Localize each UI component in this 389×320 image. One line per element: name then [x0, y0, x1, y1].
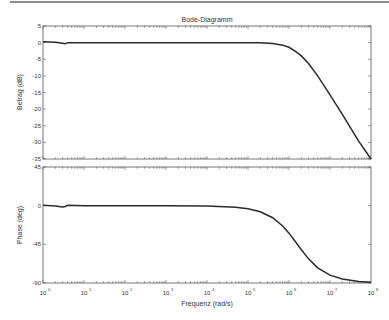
x-tick-label: 10 — [122, 290, 129, 296]
phase-axes-box — [43, 167, 371, 283]
x-tick-label: 10 — [204, 290, 211, 296]
x-tick-exponent: 7 — [335, 287, 338, 292]
x-tick-label: 10 — [286, 290, 293, 296]
y-tick-label: -25 — [32, 123, 41, 129]
y-tick-label: 0 — [38, 40, 42, 46]
bode-diagram: Bode-Diagramm 50-5-10-15-20-25-30-35 Bet… — [0, 0, 389, 320]
x-tick-exponent: 0 — [48, 287, 51, 292]
y-tick-label: -45 — [32, 241, 41, 247]
x-tick-exponent: 3 — [171, 287, 174, 292]
phase-y-label: Phase (deg) — [16, 206, 24, 244]
y-tick-label: -90 — [32, 280, 41, 286]
magnitude-axes-box — [43, 26, 371, 159]
phase-plot: 450-45-90 Phase (deg) — [16, 164, 371, 286]
x-tick-label: 10 — [81, 290, 88, 296]
x-tick-label: 10 — [368, 290, 375, 296]
x-tick-exponent: 2 — [130, 287, 133, 292]
y-tick-label: 5 — [38, 23, 42, 29]
y-tick-label: 45 — [34, 164, 41, 170]
y-tick-label: -30 — [32, 139, 41, 145]
x-tick-labels: 100101102103104105106107108 — [40, 287, 379, 296]
x-tick-exponent: 8 — [376, 287, 379, 292]
x-tick-exponent: 1 — [89, 287, 92, 292]
magnitude-y-label: Betrag (dB) — [16, 74, 24, 110]
x-tick-exponent: 5 — [253, 287, 256, 292]
x-tick-label: 10 — [245, 290, 252, 296]
y-tick-label: -5 — [36, 56, 42, 62]
x-tick-label: 10 — [163, 290, 170, 296]
x-tick-label: 10 — [327, 290, 334, 296]
x-tick-exponent: 4 — [212, 287, 215, 292]
y-tick-label: -15 — [32, 90, 41, 96]
y-tick-label: -35 — [32, 156, 41, 162]
chart-title: Bode-Diagramm — [182, 16, 233, 24]
y-tick-label: -20 — [32, 106, 41, 112]
magnitude-plot: 50-5-10-15-20-25-30-35 Betrag (dB) — [16, 23, 371, 162]
x-tick-exponent: 6 — [294, 287, 297, 292]
x-tick-label: 10 — [40, 290, 47, 296]
y-tick-label: -10 — [32, 73, 41, 79]
y-tick-label: 0 — [38, 203, 42, 209]
x-axis-label: Frequenz (rad/s) — [181, 300, 233, 308]
